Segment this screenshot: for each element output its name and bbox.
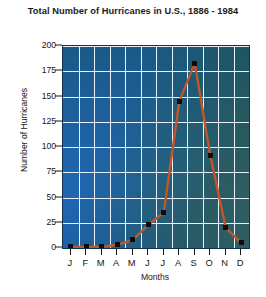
x-axis-tick-label: F xyxy=(77,257,93,268)
y-axis-tick-label: 125 xyxy=(20,116,56,126)
data-point-marker xyxy=(223,225,228,230)
y-axis-tick-mark xyxy=(55,146,62,147)
x-axis-tick-mark xyxy=(225,248,226,255)
y-axis-tick-mark xyxy=(55,221,62,222)
x-axis-tick-label: J xyxy=(139,257,155,268)
x-axis-tick-mark xyxy=(147,248,148,255)
x-axis-tick-mark xyxy=(101,248,102,255)
data-point-marker xyxy=(146,222,151,227)
x-axis-tick-mark xyxy=(178,248,179,255)
data-point-marker xyxy=(130,237,135,242)
x-axis-tick-mark xyxy=(240,248,241,255)
x-axis-tick-label: M xyxy=(93,257,109,268)
x-axis-tick-label: A xyxy=(170,257,186,268)
x-axis-tick-label: J xyxy=(155,257,171,268)
plot-area xyxy=(62,45,250,249)
x-axis-tick-mark xyxy=(163,248,164,255)
y-axis-tick-label: 100 xyxy=(20,141,56,151)
y-axis-tick-label: 0 xyxy=(20,242,56,252)
data-point-marker xyxy=(208,153,213,158)
x-axis-tick-label: N xyxy=(217,257,233,268)
y-axis-tick-mark xyxy=(55,45,62,46)
y-axis-tick-label: 175 xyxy=(20,65,56,75)
data-point-marker xyxy=(239,240,244,245)
y-axis-tick-mark xyxy=(55,95,62,96)
y-axis-tick-mark xyxy=(55,196,62,197)
y-axis-tick-label: 50 xyxy=(20,192,56,202)
data-point-marker xyxy=(177,99,182,104)
hurricane-line-path xyxy=(63,46,249,248)
x-axis-tick-label: O xyxy=(201,257,217,268)
y-axis-tick-label: 75 xyxy=(20,166,56,176)
y-axis-tick-mark xyxy=(55,120,62,121)
chart-title: Total Number of Hurricanes in U.S., 1886… xyxy=(0,6,266,17)
x-axis-tick-mark xyxy=(132,248,133,255)
x-axis-tick-label: S xyxy=(186,257,202,268)
x-axis-tick-label: M xyxy=(124,257,140,268)
x-axis-tick-label: J xyxy=(62,257,78,268)
hurricane-line-chart: Total Number of Hurricanes in U.S., 1886… xyxy=(0,0,266,297)
y-axis-tick-mark xyxy=(55,171,62,172)
data-point-marker xyxy=(192,61,197,66)
y-axis-tick-mark xyxy=(55,70,62,71)
x-axis-tick-mark xyxy=(70,248,71,255)
data-point-marker xyxy=(115,242,120,247)
y-axis-tick-mark xyxy=(55,247,62,248)
y-axis-tick-label: 25 xyxy=(20,217,56,227)
x-axis-tick-label: A xyxy=(108,257,124,268)
y-axis-tick-label: 150 xyxy=(20,91,56,101)
x-axis-tick-mark xyxy=(194,248,195,255)
x-axis-tick-mark xyxy=(85,248,86,255)
x-axis-tick-label: D xyxy=(232,257,248,268)
x-axis-tick-marks xyxy=(62,248,248,256)
x-axis-title: Months xyxy=(62,272,248,282)
x-axis-tick-mark xyxy=(116,248,117,255)
data-point-marker xyxy=(161,210,166,215)
y-axis-tick-labels: 0255075100125150175200 xyxy=(14,45,56,247)
y-axis-tick-label: 200 xyxy=(20,40,56,50)
data-series-layer xyxy=(63,46,249,248)
x-axis-tick-mark xyxy=(209,248,210,255)
x-axis-tick-labels: JFMAMJJASOND xyxy=(62,257,248,271)
